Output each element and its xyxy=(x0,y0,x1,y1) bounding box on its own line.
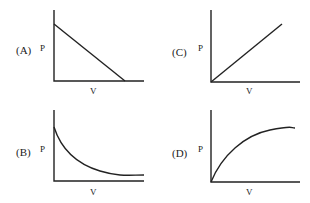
option-label-c: (C) xyxy=(172,46,187,59)
x-axis-label-c: V xyxy=(246,86,253,96)
curve-c xyxy=(211,24,282,82)
graph-a: (A) P V xyxy=(16,10,144,96)
axes-d xyxy=(211,110,300,182)
x-axis-label-b: V xyxy=(90,187,97,197)
option-label-a: (A) xyxy=(16,44,32,57)
option-label-d: (D) xyxy=(172,147,188,160)
graph-b: (B) P V xyxy=(16,110,144,197)
graph-d: (D) P V xyxy=(172,110,300,197)
curve-a xyxy=(54,24,125,81)
y-axis-label-b: P xyxy=(40,144,45,154)
y-axis-label-a: P xyxy=(40,43,45,53)
curve-d xyxy=(211,127,295,182)
curve-b xyxy=(54,127,144,175)
option-label-b: (B) xyxy=(16,146,31,159)
pv-graph-options: (A) P V (C) P V (B) P V (D) P V xyxy=(0,0,310,203)
y-axis-label-d: P xyxy=(198,144,203,154)
axes-a xyxy=(54,10,144,81)
y-axis-label-c: P xyxy=(198,43,203,53)
x-axis-label-d: V xyxy=(246,187,253,197)
x-axis-label-a: V xyxy=(90,86,97,96)
graph-c: (C) P V xyxy=(172,10,300,96)
